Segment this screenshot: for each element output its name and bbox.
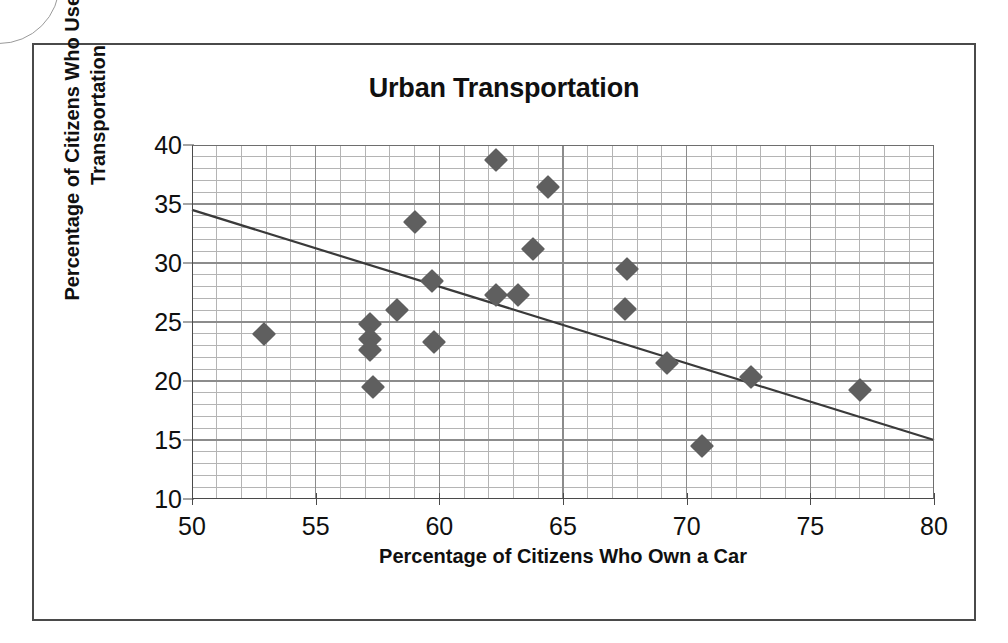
data-point-marker: [403, 210, 427, 234]
data-point-marker: [422, 330, 446, 354]
scatter-series: [192, 145, 934, 499]
y-axis-tick-label: 40: [154, 131, 182, 160]
x-axis-title: Percentage of Citizens Who Own a Car: [192, 545, 934, 568]
x-axis-tick-mark: [687, 493, 688, 505]
data-point-marker: [506, 283, 530, 307]
x-axis-tick-label: 60: [425, 512, 453, 541]
y-axis-tick-label: 20: [154, 367, 182, 396]
data-point-marker: [521, 237, 545, 261]
chart-title: Urban Transportation: [34, 73, 974, 104]
x-axis-tick-label: 65: [549, 512, 577, 541]
plot-area: [192, 145, 934, 499]
x-axis-tick-mark: [439, 493, 440, 505]
data-point-marker: [361, 375, 385, 399]
y-axis-tick-label: 30: [154, 249, 182, 278]
x-axis-tick-label: 70: [673, 512, 701, 541]
x-axis-tick-mark: [810, 493, 811, 505]
y-axis-tick-label: 25: [154, 308, 182, 337]
chart-figure-frame: Urban Transportation Percentage of Citiz…: [32, 43, 976, 621]
x-axis-ticks: 50556065707580: [192, 499, 934, 545]
data-point-marker: [484, 283, 508, 307]
x-axis-tick-mark: [934, 493, 935, 505]
data-point-marker: [848, 378, 872, 402]
x-axis-tick-mark: [563, 493, 564, 505]
y-axis-ticks: 10152025303540: [134, 145, 182, 499]
x-axis-tick-label: 80: [920, 512, 948, 541]
y-axis-title-line-2: Transportation: [86, 45, 112, 185]
y-axis-title-line-1: Percentage of Citizens Who Use Public: [60, 0, 86, 301]
y-axis-tick-label: 15: [154, 426, 182, 455]
data-point-marker: [385, 298, 409, 322]
data-point-marker: [615, 257, 639, 281]
y-axis-title: Percentage of Citizens Who Use Public Tr…: [58, 0, 114, 315]
x-axis-tick-mark: [192, 493, 193, 505]
data-point-marker: [484, 148, 508, 172]
data-point-marker: [420, 269, 444, 293]
data-point-marker: [655, 351, 679, 375]
data-point-marker: [689, 434, 713, 458]
data-point-marker: [252, 322, 276, 346]
y-axis-tick-label: 35: [154, 190, 182, 219]
data-point-marker: [739, 365, 763, 389]
scan-artifact-arc: [0, 0, 60, 44]
x-axis-tick-label: 50: [178, 512, 206, 541]
x-axis-tick-label: 55: [302, 512, 330, 541]
x-axis-tick-label: 75: [796, 512, 824, 541]
data-point-marker: [613, 297, 637, 321]
data-point-marker: [536, 175, 560, 199]
x-axis-tick-mark: [316, 493, 317, 505]
y-axis-tick-label: 10: [154, 485, 182, 514]
